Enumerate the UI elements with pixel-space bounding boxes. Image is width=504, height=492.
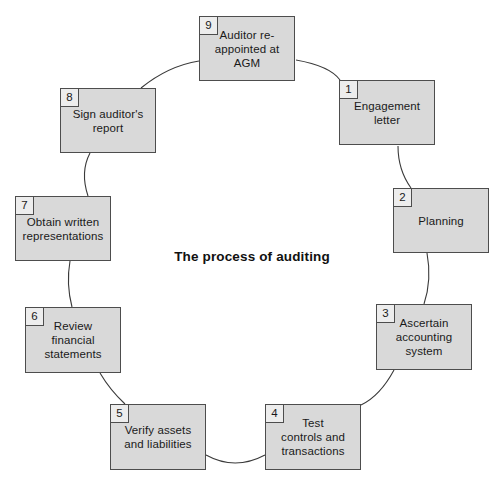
connector-9-to-1 [296, 60, 340, 80]
process-node-6[interactable]: 6 Review financial statements [25, 307, 121, 373]
node-number-4: 4 [265, 404, 284, 423]
process-node-2[interactable]: 2 Planning [393, 188, 489, 253]
process-node-1[interactable]: 1 Engagement letter [339, 80, 435, 145]
process-cycle-diagram: 1 Engagement letter 2 Planning 3 Ascerta… [0, 0, 504, 492]
node-number-1: 1 [339, 80, 358, 99]
node-label-8: Sign auditor's report [69, 107, 148, 135]
process-node-9[interactable]: 9 Auditor re- appointed at AGM [199, 16, 295, 81]
diagram-title: The process of auditing [152, 249, 352, 264]
connector-1-to-2 [398, 146, 411, 188]
process-node-4[interactable]: 4 Test controls and transactions [265, 404, 361, 470]
node-label-1: Engagement letter [350, 99, 424, 127]
connector-4-to-5 [206, 455, 265, 463]
connector-5-to-6 [100, 373, 125, 404]
node-number-8: 8 [60, 88, 79, 107]
connector-8-to-9 [141, 61, 199, 88]
node-number-9: 9 [199, 16, 218, 35]
process-node-3[interactable]: 3 Ascertain accounting system [376, 304, 472, 370]
node-number-7: 7 [15, 196, 34, 215]
node-label-6: Review financial statements [40, 319, 105, 361]
connector-2-to-3 [424, 253, 429, 304]
node-label-3: Ascertain accounting system [392, 316, 457, 358]
process-node-7[interactable]: 7 Obtain written representations [15, 196, 111, 261]
node-label-2: Planning [414, 214, 468, 228]
connector-6-to-7 [68, 261, 72, 307]
node-label-7: Obtain written representations [19, 215, 108, 243]
process-node-8[interactable]: 8 Sign auditor's report [60, 88, 156, 153]
node-label-9: Auditor re- appointed at AGM [211, 28, 284, 70]
connector-3-to-4 [361, 370, 394, 405]
node-label-5: Verify assets and liabilities [120, 423, 195, 451]
node-number-6: 6 [25, 307, 44, 326]
node-number-5: 5 [110, 404, 129, 423]
node-number-3: 3 [376, 304, 395, 323]
connector-7-to-8 [84, 153, 90, 196]
process-node-5[interactable]: 5 Verify assets and liabilities [110, 404, 206, 470]
node-label-4: Test controls and transactions [277, 416, 349, 458]
node-number-2: 2 [393, 188, 412, 207]
